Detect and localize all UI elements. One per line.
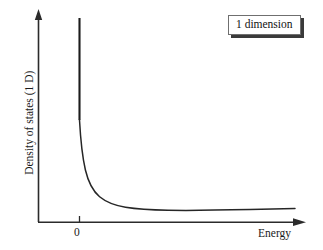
y-axis-arrow-icon (35, 9, 42, 20)
dos-1d-chart-figure: 1 dimension 0 Energy Density of states (… (0, 0, 323, 250)
y-axis-title: Density of states (1 D) (24, 38, 36, 208)
x-axis-arrow-icon (293, 218, 306, 226)
legend-label-1-dimension: 1 dimension (228, 15, 301, 35)
chart-plot-area (0, 0, 323, 250)
x-axis-title: Energy (258, 228, 291, 240)
x-axis-tick-label-zero: 0 (74, 227, 80, 239)
dos-curve-tail (80, 120, 296, 210)
